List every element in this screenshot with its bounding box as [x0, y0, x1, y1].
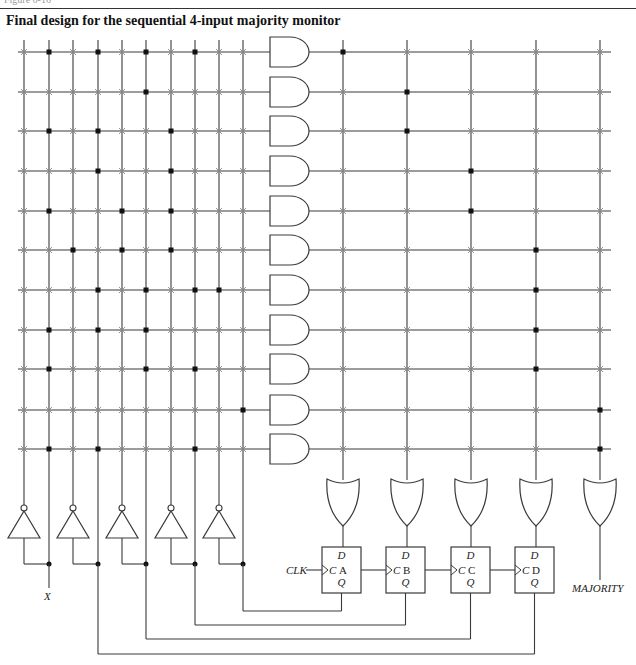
or-gate	[455, 479, 487, 526]
connection-dot	[144, 50, 149, 55]
flip-flop-name: A	[339, 564, 347, 576]
or-gate	[327, 479, 359, 526]
q-output-label: Q	[338, 576, 346, 588]
connection-dot	[341, 50, 346, 55]
inverter-triangle	[57, 511, 89, 538]
and-gate	[270, 354, 309, 384]
connection-dot	[598, 447, 603, 452]
connection-dot	[47, 328, 52, 333]
connection-dot	[47, 129, 52, 134]
connection-dot	[96, 50, 101, 55]
and-gate	[270, 116, 309, 146]
d-input-label: D	[337, 549, 346, 561]
and-gate	[270, 315, 309, 345]
or-gate	[584, 479, 616, 526]
connection-dot	[193, 288, 198, 293]
q-output-label: Q	[402, 576, 410, 588]
flip-flop-b: DCBQ	[361, 547, 425, 593]
connection-dot	[144, 288, 149, 293]
clock-input-label: C	[458, 564, 466, 576]
d-input-label: D	[401, 549, 410, 561]
connection-dot	[469, 209, 474, 214]
d-input-label: D	[466, 549, 475, 561]
connection-dot	[193, 367, 198, 372]
or-input-lines	[343, 40, 600, 480]
connection-dot	[169, 248, 174, 253]
and-gates	[270, 37, 309, 464]
flip-flop-name: C	[468, 564, 475, 576]
and-gate	[270, 434, 309, 464]
flip-flop-c: DCCQ	[425, 547, 490, 593]
flip-flop-a: DCAQ	[306, 547, 361, 593]
d-input-label: D	[530, 549, 539, 561]
and-gate	[270, 275, 309, 305]
and-gate	[270, 77, 309, 107]
and-gate	[270, 196, 309, 226]
connection-dot	[169, 209, 174, 214]
connection-dot	[47, 209, 52, 214]
q-output-label: Q	[531, 576, 539, 588]
connection-dot	[217, 288, 222, 293]
connection-dot	[169, 129, 174, 134]
connection-dot	[241, 408, 246, 413]
connection-dot	[96, 129, 101, 134]
connection-dot	[144, 367, 149, 372]
connection-dot	[598, 408, 603, 413]
input-x-label: X	[43, 590, 52, 602]
connection-dot	[144, 328, 149, 333]
d-flip-flops: DCAQDCBQDCCQDCDQ	[306, 547, 554, 593]
flip-flop-d: DCDQ	[490, 547, 554, 593]
connection-dot	[534, 248, 539, 253]
and-gate	[270, 156, 309, 186]
inverter-triangle	[106, 511, 138, 538]
connection-dot	[96, 328, 101, 333]
connection-dot	[120, 248, 125, 253]
connection-dot	[96, 288, 101, 293]
clock-input-label: C	[393, 564, 401, 576]
connection-dot	[120, 209, 125, 214]
and-gate	[270, 37, 309, 67]
connection-dot	[534, 328, 539, 333]
clk-label: CLK	[286, 564, 307, 576]
or-gate	[520, 479, 552, 526]
q-output-label: Q	[467, 576, 475, 588]
connection-dot	[193, 447, 198, 452]
pla-circuit-diagram: DCAQDCBQDCCQDCDQ X CLK MAJORITY	[0, 0, 636, 665]
flip-flop-name: B	[403, 564, 410, 576]
connection-dot	[71, 248, 76, 253]
connection-dot	[96, 447, 101, 452]
connection-dot	[405, 90, 410, 95]
clock-input-label: C	[329, 564, 337, 576]
majority-label: MAJORITY	[571, 582, 625, 594]
connection-dot	[193, 50, 198, 55]
connection-dot	[534, 288, 539, 293]
inverter-triangle	[203, 511, 235, 538]
connection-dot	[534, 367, 539, 372]
connection-dot	[405, 129, 410, 134]
connection-dot	[169, 169, 174, 174]
inverter-triangle	[155, 511, 187, 538]
connection-dot	[47, 50, 52, 55]
connection-dot	[96, 169, 101, 174]
or-gate	[391, 479, 423, 526]
product-term-lines	[18, 52, 611, 449]
inverters	[8, 505, 246, 588]
and-gate	[270, 235, 309, 265]
flip-flop-name: D	[532, 564, 540, 576]
and-gate	[270, 395, 309, 425]
connection-dot	[47, 367, 52, 372]
connection-dot	[47, 447, 52, 452]
clock-input-label: C	[522, 564, 530, 576]
inverter-triangle	[8, 511, 40, 538]
and-input-lines	[24, 40, 243, 564]
connection-dot	[144, 90, 149, 95]
connection-dot	[469, 169, 474, 174]
